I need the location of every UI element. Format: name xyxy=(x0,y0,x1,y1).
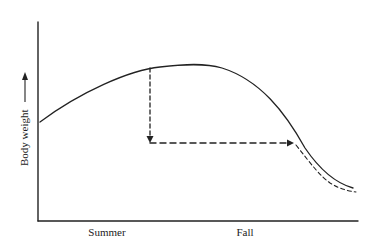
y-axis-label-group: Body weight xyxy=(18,109,30,166)
dashed-tail-curve xyxy=(296,145,356,192)
x-label-summer: Summer xyxy=(88,226,126,238)
body-weight-diagram: Body weight Summer Fall xyxy=(0,0,379,249)
up-arrow-icon xyxy=(22,72,28,80)
x-label-fall: Fall xyxy=(236,226,253,238)
y-axis-label: Body weight xyxy=(18,109,30,166)
weight-curve xyxy=(40,65,353,189)
arrowhead-down-icon xyxy=(147,136,154,143)
arrowhead-right-icon xyxy=(287,140,294,147)
